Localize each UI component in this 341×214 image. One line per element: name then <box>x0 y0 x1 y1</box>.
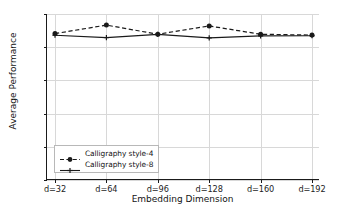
series-line-1 <box>55 25 312 35</box>
legend-label: Calligraphy style-4 <box>85 149 153 158</box>
chart-legend: Calligraphy style-4Calligraphy style-8 <box>54 145 159 173</box>
plot-area: 0.900.920.940.960.981.00 d=32d=64d=96d=1… <box>46 14 319 180</box>
x-tick-label: d=64 <box>95 184 117 194</box>
x-tick-label: d=160 <box>247 184 274 194</box>
chart-figure: Average Performance Embedding Dimension … <box>0 0 341 214</box>
data-point-marker <box>104 35 109 40</box>
data-point-marker <box>207 35 212 40</box>
x-axis-label: Embedding Dimension <box>46 194 319 204</box>
x-tick-label: d=96 <box>147 184 169 194</box>
data-point-marker <box>104 23 109 28</box>
x-tick-label: d=128 <box>196 184 223 194</box>
legend-item-2[interactable]: Calligraphy style-8 <box>59 160 153 169</box>
x-tick-label: d=32 <box>44 184 66 194</box>
y-axis-label: Average Performance <box>8 6 18 156</box>
legend-label: Calligraphy style-8 <box>85 160 153 169</box>
data-point-marker <box>207 23 212 28</box>
legend-plus-marker-icon <box>59 160 81 169</box>
x-tick-label: d=192 <box>298 184 325 194</box>
gridline-horizontal <box>47 180 319 181</box>
legend-item-1[interactable]: Calligraphy style-4 <box>59 149 153 158</box>
legend-circle-marker-icon <box>59 149 81 158</box>
y-tick-mark <box>44 180 48 181</box>
